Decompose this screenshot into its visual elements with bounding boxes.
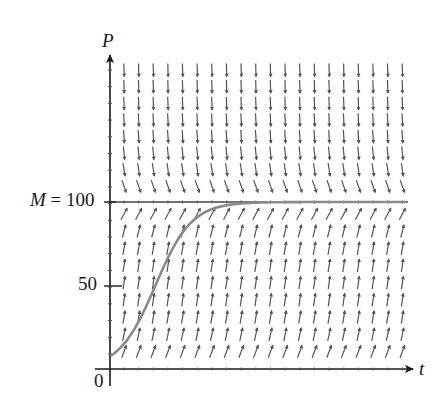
slope-segment [299, 242, 301, 255]
slope-segment [342, 328, 345, 341]
slope-segment [255, 242, 257, 255]
slope-segment [357, 311, 359, 324]
slope-segment [313, 311, 315, 324]
slope-segment [123, 311, 125, 324]
slope-segment [196, 294, 198, 307]
slope-segment [355, 208, 361, 219]
slope-segment [182, 147, 183, 160]
slope-segment [240, 163, 242, 176]
slope-segment [123, 259, 125, 272]
slope-segment [180, 346, 185, 358]
slope-segment [268, 346, 273, 358]
slope-segment [343, 242, 345, 255]
slope-segment [123, 242, 125, 255]
slope-segment [270, 163, 272, 176]
slope-segment [256, 97, 257, 110]
slope-segment [138, 147, 139, 160]
slope-segment [168, 130, 169, 143]
slope-segment [212, 130, 213, 143]
slope-segment [151, 180, 155, 192]
slope-segment [239, 346, 244, 358]
slope-segment [370, 208, 376, 219]
slope-segment [240, 294, 242, 307]
slope-segment [211, 242, 213, 255]
slope-segment [255, 328, 258, 341]
slope-segment [255, 147, 256, 160]
slope-segment [311, 208, 317, 219]
logistic-slope-field-figure: P t M = 100 50 0 [0, 0, 437, 409]
slope-segment [372, 147, 373, 160]
slope-segment [226, 97, 227, 110]
slope-segment [153, 147, 154, 160]
slope-segment [341, 208, 347, 219]
slope-segment [314, 294, 316, 307]
slope-segment [328, 163, 330, 176]
slope-segment [122, 180, 126, 192]
slope-segment [284, 259, 286, 272]
slope-segment [124, 130, 125, 143]
slope-segment [402, 130, 403, 143]
slope-segment [314, 97, 315, 110]
slope-segment [150, 208, 156, 219]
slope-segment [402, 97, 403, 110]
slope-segment [211, 147, 212, 160]
slope-segment [372, 328, 375, 341]
slope-segment [343, 259, 345, 272]
slope-segment [210, 346, 215, 358]
m-value: = 100 [51, 189, 95, 210]
slope-segment [328, 259, 330, 272]
slope-segment [138, 113, 139, 126]
slope-segment [285, 113, 286, 126]
slope-segment [312, 180, 316, 192]
slope-segment [284, 242, 286, 255]
slope-segment [138, 163, 140, 176]
slope-segment [401, 328, 404, 341]
slope-segment [373, 130, 374, 143]
slope-segment [372, 225, 375, 238]
slope-segment [152, 225, 155, 238]
slope-segment [138, 130, 139, 143]
slope-segment [195, 346, 200, 358]
slope-segment [123, 276, 125, 289]
slope-segment [181, 328, 184, 341]
slope-segment [357, 328, 360, 341]
slope-segment [255, 163, 257, 176]
slope-segment [255, 276, 257, 289]
slope-segment [285, 130, 286, 143]
slope-segment [270, 294, 272, 307]
slope-segment [372, 276, 374, 289]
slope-segment [356, 180, 360, 192]
slope-segment [168, 97, 169, 110]
slope-segment [182, 294, 184, 307]
slope-segment [138, 259, 140, 272]
slope-segment [358, 130, 359, 143]
slope-segment [124, 113, 125, 126]
slope-segment [269, 242, 271, 255]
slope-segment [343, 113, 344, 126]
slope-segment [212, 113, 213, 126]
slope-segment [123, 328, 126, 341]
slope-segment [283, 346, 288, 358]
slope-segment [386, 328, 389, 341]
slope-segment [268, 180, 272, 192]
slope-segment [226, 130, 227, 143]
slope-segment [196, 225, 199, 238]
slope-segment [327, 180, 331, 192]
slope-segment [401, 294, 403, 307]
slope-segment [180, 208, 186, 219]
slope-segment [314, 163, 316, 176]
slope-segment [210, 180, 214, 192]
slope-segment [182, 130, 183, 143]
slope-segment [224, 208, 230, 219]
slope-segment [137, 328, 140, 341]
slope-segment [166, 346, 171, 358]
slope-segment [386, 225, 389, 238]
slope-segment [226, 276, 228, 289]
slope-segment [399, 208, 405, 219]
slope-segment [358, 147, 359, 160]
slope-segment [168, 113, 169, 126]
axes [95, 55, 413, 386]
slope-segment [196, 242, 198, 255]
slope-segment [138, 97, 139, 110]
slope-segment [136, 346, 141, 358]
